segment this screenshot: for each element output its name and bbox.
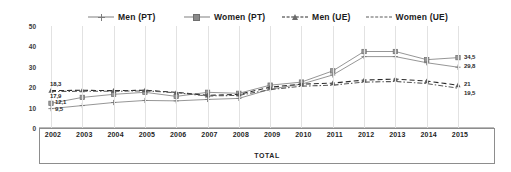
plot-area: 34,529,82119,518,317,912,19,5 [39,26,494,128]
legend-label-women-pt: Women (PT) [214,12,265,22]
gridline-2006 [176,26,177,128]
end-label-men-ue: 21 [464,81,470,87]
y-tick-40: 40 [18,43,36,50]
legend-item-men-ue[interactable]: Men (UE) [282,9,350,25]
x-tick-2015: 2015 [440,131,480,138]
legend-key-men-pt [88,11,114,23]
gridline-2007 [208,26,209,128]
gridline-2004 [114,26,115,128]
gridline-2003 [82,26,83,128]
legend-key-women-pt [184,11,210,23]
x-axis-title: TOTAL [40,152,494,159]
gridline-2011 [333,26,334,128]
end-label-women-pt: 34,5 [464,54,475,60]
legend-item-women-ue[interactable]: Women (UE) [366,9,448,25]
square-marker-icon [193,14,200,21]
gridline-2014 [427,26,428,128]
x-axis-band: 2002200320042005200620072008200920102011… [39,128,495,164]
end-label-men-pt: 29,8 [464,63,475,69]
y-tick-50: 50 [18,23,36,30]
chart-legend: Men (PT) Women (PT) Men (UE) Women (UE) [88,9,448,25]
y-tick-30: 30 [18,63,36,70]
gridline-2008 [239,26,240,128]
start-label-men-pt: 9,5 [55,106,63,112]
x-tick-labels: 2002200320042005200620072008200920102011… [40,131,494,147]
gridline-2013 [395,26,396,128]
legend-key-women-ue [366,11,392,23]
gridline-2015 [458,26,459,128]
legend-item-women-pt[interactable]: Women (PT) [184,9,265,25]
chart-screenshot: Men (PT) Women (PT) Men (UE) Women (UE) … [0,0,511,172]
legend-key-men-ue [282,11,308,23]
legend-item-men-pt[interactable]: Men (PT) [88,9,155,25]
triangle-marker-icon [292,14,298,20]
start-label-women-pt: 12,1 [55,99,66,105]
y-tick-20: 20 [18,84,36,91]
plus-marker-icon [98,14,105,21]
y-tick-10: 10 [18,104,36,111]
gridline-2002 [51,26,52,128]
end-label-women-ue: 19,5 [464,90,475,96]
gridline-2009 [270,26,271,128]
gridline-2005 [145,26,146,128]
legend-label-men-pt: Men (PT) [118,12,155,22]
gridline-2010 [301,26,302,128]
line-men-pt [51,57,458,109]
legend-label-men-ue: Men (UE) [312,12,350,22]
legend-label-women-ue: Women (UE) [396,12,448,22]
start-label-men-ue: 18,3 [50,81,61,87]
y-axis: 50 40 30 20 10 0 [14,26,36,128]
gridline-2012 [364,26,365,128]
